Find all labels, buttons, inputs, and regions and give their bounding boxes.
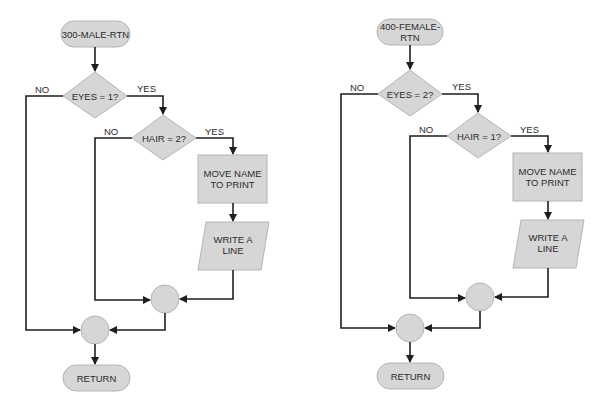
yes-label-hair: YES bbox=[520, 124, 539, 135]
no-label-hair: NO bbox=[419, 124, 433, 135]
no-label-hair: NO bbox=[104, 126, 118, 137]
arrow-io-to-connector1 bbox=[495, 268, 548, 297]
process-move-name: MOVE NAME TO PRINT bbox=[513, 153, 582, 201]
flowchart-canvas: 300-MALE-RTN EYES = 1? NO YES HAIR = 2? … bbox=[0, 0, 599, 413]
arrow-hair-no bbox=[95, 138, 150, 300]
connector-outer bbox=[81, 316, 109, 344]
arrow-eyes-no bbox=[341, 94, 395, 328]
end-terminator: RETURN bbox=[377, 363, 444, 389]
io-write-line: WRITE A LINE bbox=[198, 222, 269, 270]
start-terminator: 300-MALE-RTN bbox=[61, 21, 130, 47]
decision-eyes-label: EYES = 1? bbox=[72, 91, 119, 102]
end-terminator: RETURN bbox=[63, 365, 130, 391]
flowchart-female-routine: 400-FEMALE- RTN EYES = 2? NO YES HAIR = … bbox=[341, 19, 584, 389]
arrow-eyes-yes bbox=[127, 96, 163, 114]
connector-inner bbox=[466, 283, 494, 311]
decision-hair-label: HAIR = 2? bbox=[142, 133, 186, 144]
arrow-io-to-connector1 bbox=[180, 270, 233, 299]
process-line2: TO PRINT bbox=[210, 179, 254, 190]
process-line2: TO PRINT bbox=[525, 177, 569, 188]
decision-hair: HAIR = 1? bbox=[447, 113, 511, 158]
io-line1: WRITE A bbox=[528, 232, 568, 243]
start-label-line2: RTN bbox=[400, 32, 419, 43]
connector-outer bbox=[396, 314, 424, 342]
decision-eyes: EYES = 2? bbox=[378, 70, 442, 116]
io-line2: LINE bbox=[537, 243, 558, 254]
arrow-hair-yes bbox=[196, 138, 233, 154]
start-label: 300-MALE-RTN bbox=[62, 29, 130, 40]
io-line2: LINE bbox=[222, 245, 243, 256]
process-line1: MOVE NAME bbox=[518, 166, 576, 177]
no-label-eyes: NO bbox=[350, 82, 364, 93]
arrow-hair-yes bbox=[511, 136, 548, 152]
flowchart-male-routine: 300-MALE-RTN EYES = 1? NO YES HAIR = 2? … bbox=[26, 21, 269, 391]
start-label-line1: 400-FEMALE- bbox=[380, 21, 440, 32]
end-label: RETURN bbox=[77, 373, 117, 384]
io-write-line: WRITE A LINE bbox=[513, 220, 584, 268]
no-label-eyes: NO bbox=[35, 84, 49, 95]
arrow-connector1-to-connector2 bbox=[110, 313, 165, 330]
arrow-eyes-yes bbox=[442, 94, 478, 112]
decision-hair-label: HAIR = 1? bbox=[457, 131, 501, 142]
arrow-hair-no bbox=[410, 136, 465, 298]
decision-eyes-label: EYES = 2? bbox=[387, 89, 434, 100]
process-move-name: MOVE NAME TO PRINT bbox=[198, 155, 267, 203]
connector-inner bbox=[151, 285, 179, 313]
end-label: RETURN bbox=[391, 371, 431, 382]
io-line1: WRITE A bbox=[213, 234, 253, 245]
decision-eyes: EYES = 1? bbox=[63, 72, 127, 118]
start-terminator: 400-FEMALE- RTN bbox=[377, 19, 443, 45]
yes-label-hair: YES bbox=[205, 126, 224, 137]
yes-label-eyes: YES bbox=[137, 83, 156, 94]
decision-hair: HAIR = 2? bbox=[132, 115, 196, 160]
arrow-eyes-no bbox=[26, 96, 80, 330]
arrow-connector1-to-connector2 bbox=[425, 311, 480, 328]
process-line1: MOVE NAME bbox=[203, 168, 261, 179]
yes-label-eyes: YES bbox=[452, 81, 471, 92]
